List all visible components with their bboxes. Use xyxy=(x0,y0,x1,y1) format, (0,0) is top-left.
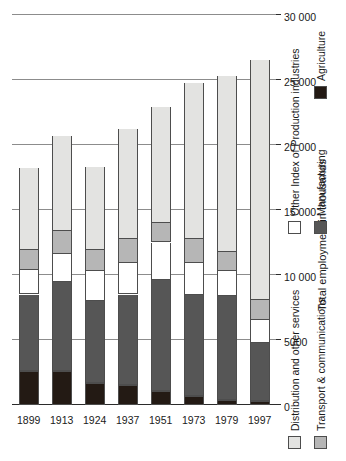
axis-tick xyxy=(276,404,281,405)
bar-segment xyxy=(85,383,105,405)
bar-segment xyxy=(118,295,138,385)
bar-segment xyxy=(118,385,138,405)
axis-tick xyxy=(276,339,281,340)
legend-swatch xyxy=(314,221,327,234)
category-label: 1979 xyxy=(215,414,238,426)
bar-segment xyxy=(52,371,72,405)
legend-swatch xyxy=(314,86,327,99)
bar-stack xyxy=(151,15,171,405)
legend-swatch xyxy=(288,436,301,449)
legend-item[interactable]: Transport & communications xyxy=(314,298,327,449)
bar-segment xyxy=(250,60,270,301)
chart-figure: 0500010 00015 00020 00025 00030 00018991… xyxy=(0,0,346,461)
bar-segment xyxy=(118,239,138,264)
bar-stack xyxy=(217,15,237,405)
bar-segment xyxy=(151,391,171,405)
legend-label: Transport & communications xyxy=(315,298,327,431)
axis-tick xyxy=(276,274,281,275)
legend-label: Distribution and other services xyxy=(289,290,301,431)
bar-segment xyxy=(184,295,204,396)
axis-tick xyxy=(276,209,281,210)
category-label: 1899 xyxy=(17,414,40,426)
bar-segment xyxy=(85,167,105,250)
category-label: 1973 xyxy=(182,414,205,426)
bar-segment xyxy=(118,129,138,238)
bar-segment xyxy=(52,136,72,232)
bar-segment xyxy=(85,271,105,301)
chart-legend: Distribution and other servicesOther Ind… xyxy=(288,9,340,449)
bar-stack xyxy=(118,15,138,405)
bar-stack xyxy=(52,15,72,405)
bar-segment xyxy=(217,400,237,405)
legend-label: Agriculture xyxy=(315,31,327,81)
bar-stack xyxy=(250,15,270,405)
bar-segment xyxy=(217,252,237,272)
category-label: 1997 xyxy=(248,414,271,426)
legend-label: Other Index of Production industries xyxy=(289,48,301,216)
bar-segment xyxy=(52,231,72,253)
category-label: 1913 xyxy=(50,414,73,426)
bar-stack xyxy=(85,15,105,405)
bar-segment xyxy=(85,301,105,383)
bar-segment xyxy=(184,83,204,239)
axis-tick xyxy=(276,144,281,145)
bar-segment xyxy=(52,254,72,283)
bar-segment xyxy=(184,263,204,295)
bar-segment xyxy=(250,320,270,343)
bar-segment xyxy=(52,282,72,371)
axis-tick xyxy=(276,14,281,15)
category-label: 1937 xyxy=(116,414,139,426)
bar-segment xyxy=(250,343,270,402)
bar-segment xyxy=(250,401,270,405)
category-label: 1951 xyxy=(149,414,172,426)
legend-swatch xyxy=(314,436,327,449)
axis-tick xyxy=(276,79,281,80)
bar-segment xyxy=(151,243,171,280)
legend-item[interactable]: Other Index of Production industries xyxy=(288,48,301,234)
bar-segment xyxy=(184,239,204,264)
category-label: 1924 xyxy=(83,414,106,426)
bar-segment xyxy=(151,280,171,391)
legend-item[interactable]: Manufacturing xyxy=(314,149,327,234)
bar-segment xyxy=(217,296,237,400)
bar-segment xyxy=(184,396,204,405)
bar-stack xyxy=(19,15,39,405)
bar-segment xyxy=(250,300,270,320)
bar-segment xyxy=(19,250,39,270)
bar-stack xyxy=(184,15,204,405)
bar-segment xyxy=(217,271,237,296)
bar-segment xyxy=(151,223,171,243)
bar-segment xyxy=(19,270,39,295)
bar-segment xyxy=(217,76,237,252)
legend-item[interactable]: Distribution and other services xyxy=(288,290,301,449)
plot-area: 0500010 00015 00020 00025 00030 00018991… xyxy=(12,15,276,405)
bar-segment xyxy=(151,107,171,223)
legend-item[interactable]: Agriculture xyxy=(314,31,327,99)
bar-segment xyxy=(19,371,39,405)
bar-segment xyxy=(85,250,105,271)
bar-segment xyxy=(19,168,39,251)
legend-label: Manufacturing xyxy=(315,149,327,216)
bar-segment xyxy=(19,295,39,372)
bar-segment xyxy=(118,263,138,294)
legend-swatch xyxy=(288,221,301,234)
